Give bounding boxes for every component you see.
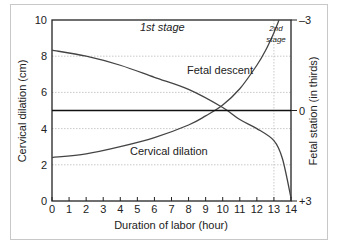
x-tick-label: 12 (251, 203, 263, 215)
y-tick-label: 6 (41, 86, 47, 98)
stage1-label: 1st stage (140, 21, 185, 33)
x-tick-label: 6 (151, 203, 157, 215)
y-tick-label: 8 (41, 50, 47, 62)
x-tick-label: 9 (203, 203, 209, 215)
y-axis-right-label: Fetal station (in thirds) (307, 57, 319, 166)
fetal-descent-label: Fetal descent (187, 64, 253, 76)
x-tick-label: 1 (66, 203, 72, 215)
y-tick-label: 0 (41, 195, 47, 207)
ticks: 012345678910111213140246810–30+3 (35, 14, 312, 215)
y-tick-label: 2 (41, 159, 47, 171)
x-tick-label: 10 (217, 203, 229, 215)
cervical-dilation-line (52, 20, 279, 158)
x-tick-label: 5 (134, 203, 140, 215)
y-tick-label: 10 (35, 14, 47, 26)
y-right-tick-label: 0 (299, 105, 305, 117)
x-tick-label: 14 (285, 203, 297, 215)
stage2-label-2: stage (266, 35, 286, 44)
x-tick-label: 2 (83, 203, 89, 215)
x-tick-label: 8 (186, 203, 192, 215)
labor-chart: 012345678910111213140246810–30+3 1st sta… (0, 0, 341, 248)
x-tick-label: 11 (234, 203, 245, 215)
x-tick-label: 13 (268, 203, 280, 215)
y-axis-label: Cervical dilation (cm) (16, 60, 28, 163)
x-axis-label: Duration of labor (hour) (114, 219, 228, 231)
fetal-descent-line (52, 50, 291, 198)
stage2-label-1: 2nd (268, 24, 283, 33)
curves (52, 20, 291, 198)
cervical-dilation-label: Cervical dilation (130, 145, 208, 157)
x-tick-label: 0 (49, 203, 55, 215)
x-tick-label: 4 (117, 203, 123, 215)
y-right-tick-label: –3 (299, 14, 311, 26)
x-tick-label: 3 (100, 203, 106, 215)
x-tick-label: 7 (168, 203, 174, 215)
y-tick-label: 4 (41, 123, 47, 135)
y-right-tick-label: +3 (299, 195, 312, 207)
